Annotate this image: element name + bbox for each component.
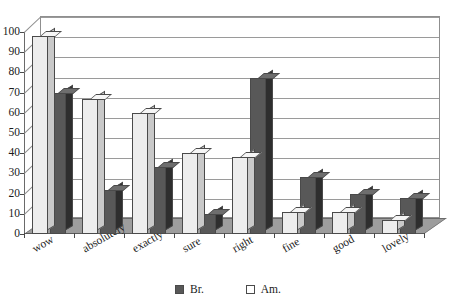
y-axis-tick-mark: [20, 72, 24, 73]
bar-front-face: [382, 220, 398, 234]
y-axis-tick-label: 40: [0, 147, 20, 158]
y-axis-tick-label: 70: [0, 87, 20, 98]
y-axis-tick-label: 0: [0, 228, 20, 239]
x-axis-label-sure: sure: [180, 234, 203, 254]
gridline: [41, 17, 439, 18]
gridline: [41, 37, 439, 38]
x-axis-tick-mark: [324, 233, 325, 238]
bar-side-face: [98, 90, 105, 230]
legend-swatch-am-icon: [246, 285, 255, 294]
bar-chart: 0102030405060708090100 wowabsolutelyexac…: [0, 0, 456, 308]
x-axis-tick-mark: [24, 233, 25, 238]
y-axis-tick-label: 50: [0, 127, 20, 138]
bar-side-face: [316, 169, 323, 230]
legend-label-am: Am.: [261, 283, 281, 295]
y-axis-tick-label: 80: [0, 66, 20, 77]
bar-side-face: [266, 70, 273, 230]
x-axis-tick-mark: [124, 233, 125, 238]
bar-sure-am: [182, 153, 198, 234]
legend-item-am: Am.: [246, 283, 281, 295]
x-axis-label-wow: wow: [30, 233, 55, 255]
y-axis-tick-label: 30: [0, 167, 20, 178]
y-axis-tick-label: 60: [0, 107, 20, 118]
legend-label-br: Br.: [190, 283, 204, 295]
bar-right-am: [232, 157, 248, 234]
bar-front-face: [232, 157, 248, 234]
bar-side-face: [66, 84, 73, 230]
legend-item-br: Br.: [175, 283, 204, 295]
bar-exactly-am: [132, 113, 148, 234]
y-axis-tick-mark: [20, 173, 24, 174]
x-axis-tick-mark: [274, 233, 275, 238]
x-axis-label-good: good: [330, 233, 356, 255]
bar-side-face: [166, 159, 173, 230]
bar-front-face: [282, 212, 298, 234]
x-axis-tick-mark: [224, 233, 225, 238]
bar-wow-am: [32, 36, 48, 234]
bar-side-face: [248, 149, 255, 230]
x-axis-tick-mark: [424, 233, 425, 238]
x-axis-tick-mark: [174, 233, 175, 238]
bar-lovely-am: [382, 220, 398, 234]
y-axis-tick-label: 20: [0, 188, 20, 199]
x-axis-tick-mark: [74, 233, 75, 238]
y-axis-tick-label: 100: [0, 26, 20, 37]
x-axis-label-fine: fine: [280, 235, 301, 254]
gridline: [41, 57, 439, 58]
bar-front-face: [182, 153, 198, 234]
bar-front-face: [132, 113, 148, 234]
bar-fine-am: [282, 212, 298, 234]
axis-depth-connector: [24, 16, 42, 33]
bar-front-face: [32, 36, 48, 234]
bar-front-face: [82, 99, 98, 234]
bar-side-face: [148, 104, 155, 230]
x-axis-tick-mark: [374, 233, 375, 238]
gridline: [41, 78, 439, 79]
chart-legend: Br. Am.: [0, 283, 456, 295]
bar-good-am: [332, 212, 348, 234]
bar-front-face: [332, 212, 348, 234]
bar-absolutely-am: [82, 99, 98, 234]
x-axis-label-right: right: [230, 233, 255, 254]
legend-swatch-br-icon: [175, 285, 184, 294]
bar-side-face: [198, 145, 205, 230]
y-axis-tick-label: 10: [0, 208, 20, 219]
bar-side-face: [48, 28, 55, 230]
y-axis-tick-label: 90: [0, 46, 20, 57]
